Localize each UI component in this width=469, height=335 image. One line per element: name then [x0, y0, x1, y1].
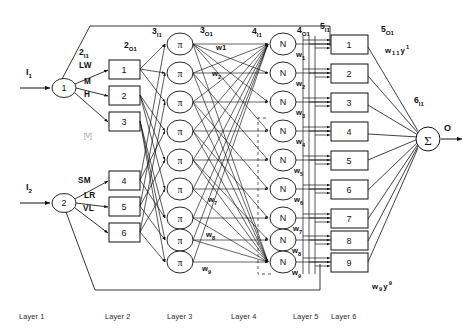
layer5-box-7-text: 7 — [346, 214, 351, 224]
normalized-weight-8: w8 — [292, 247, 301, 257]
layer6-node-label: Σ — [424, 133, 432, 148]
layer1-node-2-text: 2 — [61, 198, 66, 208]
figure-canvas: 1 2 1 2 3 4 5 6 π π π π π π π π π N N N … — [0, 0, 469, 335]
consequent-term-9: w9y9 — [372, 281, 393, 293]
layer2-boxes — [109, 60, 140, 242]
layer-caption-2: Layer 2 — [105, 313, 130, 320]
layer-caption-1: Layer 1 — [19, 313, 44, 320]
layer4-node-5-text: N — [280, 155, 287, 165]
rule-weight-2: w2 — [212, 70, 221, 80]
layer4-node-6-text: N — [280, 184, 287, 194]
layer5-box-3-text: 3 — [346, 98, 351, 108]
layer5-box-6-text: 6 — [346, 185, 351, 195]
stage-tag-5O1: 5O1 — [381, 25, 394, 36]
layer5-input-arrows — [303, 40, 330, 266]
normalized-weight-6: w6 — [294, 196, 303, 206]
rule-weight-1: w1 — [216, 44, 226, 52]
layer3-to-layer4-links — [193, 44, 268, 262]
layer5-box-8-text: 8 — [346, 236, 351, 246]
normalized-weight-1: w1 — [296, 51, 305, 61]
layer4-node-7-text: N — [280, 213, 287, 223]
stage-tag-2O1: 2O1 — [124, 41, 137, 52]
rule-weight-8: w8 — [206, 231, 215, 241]
layer2-box-6-text: 6 — [121, 228, 126, 238]
layer4-node-9-text: N — [280, 257, 287, 267]
rule-weight-7: w7 — [208, 196, 217, 206]
layer-caption-5: Layer 5 — [293, 313, 318, 320]
layer2-box-5-text: 5 — [121, 202, 126, 212]
layer2-box-2-text: 2 — [121, 91, 126, 101]
layer4-to-layer5-bus — [296, 36, 332, 274]
stage-tag-2I1: 2I1 — [79, 48, 89, 59]
rule-weight-9: w9 — [202, 265, 211, 275]
vee-marker: [V] — [84, 133, 92, 139]
layer5-box-1-text: 1 — [346, 40, 351, 50]
stage-tag-4I1: 4I1 — [252, 27, 262, 38]
normalized-weight-3: w3 — [296, 109, 305, 119]
layer5-box-5-text: 5 — [346, 156, 351, 166]
layer4-node-4-text: N — [280, 126, 287, 136]
membership-label-lr: LR — [84, 192, 95, 200]
layer2-box-3-text: 3 — [121, 117, 126, 127]
stage-tag-6I1: 6I1 — [414, 96, 424, 107]
layer4-node-2-text: N — [280, 68, 287, 78]
membership-label-vl: VL — [83, 205, 94, 213]
layer4-node-3-text: N — [280, 97, 287, 107]
layer3-node-4-text: π — [177, 126, 182, 137]
layer3-node-6-text: π — [177, 184, 182, 195]
normalized-weight-2: w2 — [296, 80, 305, 90]
normalized-weight-9: w9 — [292, 269, 301, 279]
output-label: O — [444, 124, 451, 133]
membership-label-h: H — [84, 91, 90, 99]
sigma-node-text: Σ — [424, 133, 432, 148]
input-1-label: I1 — [26, 68, 32, 79]
layer3-node-2-text: π — [177, 68, 182, 79]
layer5-box-2-text: 2 — [346, 69, 351, 79]
layer4-node-8-text: N — [280, 235, 287, 245]
layer2-box-4-text: 4 — [121, 176, 126, 186]
membership-label-sm: SM — [78, 177, 91, 185]
stage-tag-4O1: 4O1 — [297, 26, 310, 37]
membership-label-m: M — [84, 78, 91, 86]
consequent-term-1: w11y1 — [385, 45, 410, 57]
normalized-weight-4: w4 — [296, 138, 305, 148]
stage-tag-5I1: 5I1 — [320, 22, 330, 33]
layer3-node-3-text: π — [177, 97, 182, 108]
layer5-box-9-text: 9 — [346, 258, 351, 268]
layer5-to-layer6-links — [368, 47, 418, 262]
layer3-node-1-text: π — [177, 39, 182, 50]
input-2-label: I2 — [26, 183, 32, 194]
layer5-box-4-text: 4 — [346, 127, 351, 137]
layer4-node-1-text: N — [280, 39, 287, 49]
layer-caption-3: Layer 3 — [167, 313, 192, 320]
membership-label-lw: LW — [79, 62, 92, 70]
normalized-weight-5: w5 — [294, 167, 303, 177]
layer4-bus — [258, 118, 272, 274]
layer3-node-7-text: π — [177, 213, 182, 224]
layer1-nodes — [52, 79, 76, 213]
layer-caption-4: Layer 4 — [231, 313, 256, 320]
layer1-node-1-text: 1 — [61, 83, 66, 93]
stage-tag-3I1: 3I1 — [152, 27, 162, 38]
input-arrows — [20, 88, 50, 203]
layer-caption-6: Layer 6 — [331, 313, 356, 320]
layer2-box-1-text: 1 — [121, 65, 126, 75]
layer3-node-9-text: π — [177, 257, 182, 268]
stage-tag-3O1: 3O1 — [200, 26, 213, 37]
layer1-node-labels: 1 2 — [61, 83, 66, 208]
normalized-weight-7: w7 — [293, 225, 302, 235]
layer2-to-layer3-links — [140, 44, 165, 262]
layer3-node-8-text: π — [177, 235, 182, 246]
layer3-node-5-text: π — [177, 155, 182, 166]
